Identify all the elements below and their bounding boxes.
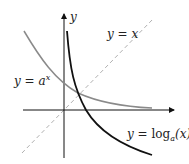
log-lhs: y <box>127 127 134 141</box>
logarithm-label: y = loga(x) <box>127 128 189 143</box>
exp-base: a <box>39 74 46 88</box>
exponential-curve <box>24 31 152 108</box>
exp-exponent: x <box>46 73 51 82</box>
exp-lhs: y <box>14 74 21 88</box>
identity-label: y = x <box>107 28 138 40</box>
log-eq: = <box>138 127 148 141</box>
exp-eq: = <box>25 74 35 88</box>
log-arg: (x) <box>175 127 189 141</box>
log-fn: log <box>152 127 171 141</box>
diagram: y y = x y = ax y = loga(x) <box>0 0 189 164</box>
exponential-label: y = ax <box>14 74 50 87</box>
y-axis-label: y <box>70 11 77 23</box>
